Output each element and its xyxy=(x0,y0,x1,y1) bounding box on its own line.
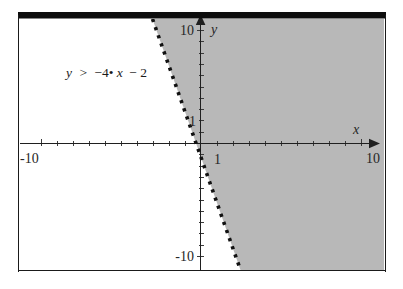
x-tick-label-10: 10 xyxy=(366,151,380,166)
x-tick-label-neg10: -10 xyxy=(20,151,39,166)
annotation-variable: x xyxy=(116,65,123,80)
annotation-constant: − 2 xyxy=(129,65,147,80)
y-tick-label-10: 10 xyxy=(180,23,194,38)
inequality-figure: -10 1 10 10 1 -10 x y y > −4• x − 2 xyxy=(0,0,403,289)
y-tick-label-1: 1 xyxy=(189,114,196,129)
x-axis-label: x xyxy=(352,122,360,137)
annotation-relation: > xyxy=(79,65,87,80)
annotation-lhs: y xyxy=(64,65,72,80)
annotation-rhs: −4• xyxy=(94,65,113,80)
y-axis-label: y xyxy=(209,22,218,37)
frame-top-bar xyxy=(18,12,386,19)
x-tick-label-1: 1 xyxy=(214,152,221,167)
y-tick-label-neg10: -10 xyxy=(175,249,194,264)
graph-canvas: -10 1 10 10 1 -10 x y y > −4• x − 2 xyxy=(0,0,403,289)
